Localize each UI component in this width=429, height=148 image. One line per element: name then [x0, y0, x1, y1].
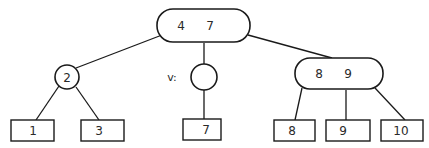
node-v-shape: [191, 64, 217, 90]
node-8-9-key-1: 8: [315, 67, 323, 81]
node-8-9-shape: [295, 58, 383, 89]
edge-n89-leaf8: [295, 88, 302, 120]
leaf-9: 9: [326, 120, 370, 141]
leaf-10: 10: [381, 120, 423, 141]
edge-n2-leaf3: [76, 87, 99, 120]
leaf-3: 3: [81, 120, 124, 141]
node-2: 2: [55, 65, 79, 89]
root-node: 4 7: [157, 9, 250, 42]
tree-diagram: 4 7 2 v: 8 9 1 3 7: [0, 0, 429, 148]
edge-root-n2: [76, 35, 162, 68]
leaf-1: 1: [11, 120, 54, 141]
edge-n89-leaf10: [375, 88, 405, 120]
leaf-8-label: 8: [288, 124, 296, 138]
leaf-8: 8: [274, 120, 315, 141]
node-8-9: 8 9: [295, 58, 383, 89]
leaf-1-label: 1: [29, 124, 37, 138]
node-2-key: 2: [63, 71, 71, 85]
root-key-1: 4: [177, 19, 185, 33]
leaf-9-label: 9: [339, 124, 347, 138]
edge-root-n89: [248, 35, 332, 58]
leaf-10-label: 10: [393, 124, 408, 138]
leaf-9-shape: [326, 120, 370, 141]
root-key-2: 7: [206, 19, 214, 33]
leaf-7: 7: [183, 119, 221, 140]
root-node-shape: [157, 9, 250, 42]
node-8-9-key-2: 9: [344, 67, 352, 81]
node-v: v:: [167, 64, 217, 90]
leaf-7-label: 7: [202, 123, 210, 137]
node-v-name-label: v:: [167, 71, 177, 84]
tree-diagram-svg: 4 7 2 v: 8 9 1 3 7: [0, 0, 429, 148]
edge-n2-leaf1: [36, 86, 59, 120]
leaf-3-label: 3: [95, 124, 103, 138]
